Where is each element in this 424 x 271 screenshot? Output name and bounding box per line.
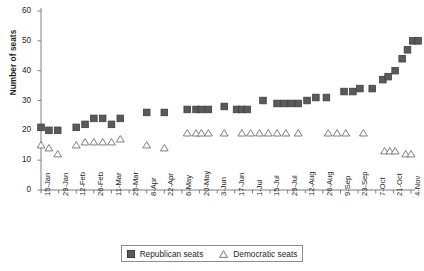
democratic-marker — [160, 145, 168, 151]
democratic-marker — [99, 139, 107, 145]
democratic-marker — [256, 130, 264, 136]
republican-marker — [369, 85, 376, 92]
democratic-marker — [360, 130, 368, 136]
y-tick-label: 20 — [13, 126, 31, 134]
republican-marker — [184, 106, 191, 113]
republican-marker — [161, 109, 168, 116]
x-tick-label: 8-Apr — [150, 177, 158, 196]
republican-marker — [304, 97, 311, 104]
x-tick-label: 21-Oct — [396, 173, 404, 196]
y-tick-label: 40 — [13, 67, 31, 75]
chart-container: Number of seats 0102030405060 15-Jan29-J… — [0, 0, 424, 271]
republican-marker — [357, 85, 364, 92]
democratic-marker — [90, 139, 98, 145]
republican-marker — [295, 100, 302, 107]
x-tick-label: 3-Jun — [220, 177, 228, 196]
republican-marker — [385, 73, 392, 80]
x-tick-label: 25-Mar — [132, 172, 140, 196]
republican-marker — [221, 103, 228, 110]
democratic-marker — [81, 139, 89, 145]
democratic-marker — [342, 130, 350, 136]
republican-marker — [323, 94, 330, 101]
republican-marker — [350, 88, 357, 95]
democratic-marker — [37, 142, 45, 148]
x-tick-label: 4-Nov — [414, 176, 422, 196]
democratic-marker — [333, 130, 341, 136]
x-tick-label: 15-Jan — [44, 173, 52, 196]
republican-marker — [415, 38, 422, 45]
republican-marker — [404, 46, 411, 53]
republican-marker — [274, 100, 281, 107]
x-tick-label: 26-Feb — [97, 172, 105, 196]
x-tick-label: 9-Sep — [344, 176, 352, 196]
democratic-marker — [183, 130, 191, 136]
x-tick-label: 12-Feb — [79, 172, 87, 196]
democratic-marker — [391, 148, 399, 154]
republican-marker — [143, 109, 150, 116]
republican-marker — [281, 100, 288, 107]
republican-marker — [260, 97, 267, 104]
y-tick-label: 60 — [13, 7, 31, 15]
republican-marker — [288, 100, 295, 107]
x-tick-label: 22-Apr — [167, 173, 175, 196]
series-republican — [38, 38, 422, 134]
x-tick-label: 12-Aug — [308, 172, 316, 197]
democratic-marker — [264, 130, 272, 136]
plot-area — [0, 0, 424, 271]
y-tick-label: 50 — [13, 37, 31, 45]
democratic-marker — [108, 139, 116, 145]
republican-marker — [198, 106, 205, 113]
x-tick-label: 7-Oct — [379, 177, 387, 196]
republican-marker — [313, 94, 320, 101]
democratic-marker — [54, 150, 62, 156]
legend: Republican seats Democratic seats — [121, 245, 303, 262]
democratic-marker — [72, 142, 80, 148]
republican-marker — [73, 124, 80, 131]
republican-marker — [99, 115, 106, 122]
republican-marker — [205, 106, 212, 113]
democratic-marker — [45, 145, 53, 151]
republican-marker — [244, 106, 251, 113]
x-tick-label: 1-Jul — [256, 180, 264, 196]
democratic-marker — [407, 150, 415, 156]
x-tick-label: 23-Sep — [361, 172, 369, 197]
democratic-marker — [247, 130, 255, 136]
democratic-marker — [294, 130, 302, 136]
legend-label-republican: Republican seats — [140, 249, 204, 259]
y-tick-label: 10 — [13, 156, 31, 164]
republican-marker — [82, 121, 89, 128]
democratic-marker — [324, 130, 332, 136]
republican-marker — [46, 127, 53, 134]
x-tick-label: 11-Mar — [115, 173, 123, 197]
x-tick-label: 29-Jul — [291, 175, 299, 196]
x-tick-label: 17-Jun — [238, 173, 246, 196]
open-triangle-icon — [219, 250, 228, 258]
republican-marker — [91, 115, 98, 122]
y-tick-label: 0 — [13, 186, 31, 194]
democratic-marker — [143, 142, 151, 148]
legend-item-democratic: Democratic seats — [219, 249, 297, 259]
democratic-marker — [197, 130, 205, 136]
democratic-marker — [220, 130, 228, 136]
democratic-marker — [273, 130, 281, 136]
democratic-marker — [204, 130, 212, 136]
filled-square-icon — [127, 250, 135, 258]
democratic-marker — [116, 136, 124, 142]
legend-label-democratic: Democratic seats — [233, 249, 297, 259]
republican-marker — [108, 121, 115, 128]
series-democratic — [37, 130, 415, 157]
republican-marker — [341, 88, 348, 95]
republican-marker — [54, 127, 61, 134]
x-tick-label: 29-Jan — [62, 173, 70, 196]
y-tick-label: 30 — [13, 97, 31, 105]
x-tick-label: 6-May — [185, 175, 193, 196]
legend-item-republican: Republican seats — [127, 249, 204, 259]
democratic-marker — [238, 130, 246, 136]
democratic-marker — [282, 130, 290, 136]
republican-marker — [392, 67, 399, 74]
republican-marker — [117, 115, 124, 122]
republican-marker — [399, 55, 406, 62]
x-tick-label: 20-May — [203, 171, 211, 196]
x-tick-label: 15-Jul — [273, 175, 281, 196]
x-tick-label: 26-Aug — [326, 172, 334, 197]
